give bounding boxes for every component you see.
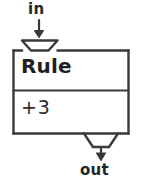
function-machine-diagram: in Rule +3 out (0, 0, 141, 192)
input-port-shape (22, 41, 58, 51)
input-arrow-icon (35, 20, 44, 38)
input-label: in (28, 2, 44, 17)
output-arrow-icon (97, 147, 106, 161)
rule-operation-label: +3 (21, 98, 51, 117)
output-port-shape (84, 134, 118, 148)
rule-header-label: Rule (21, 56, 72, 76)
output-label: out (80, 163, 109, 178)
